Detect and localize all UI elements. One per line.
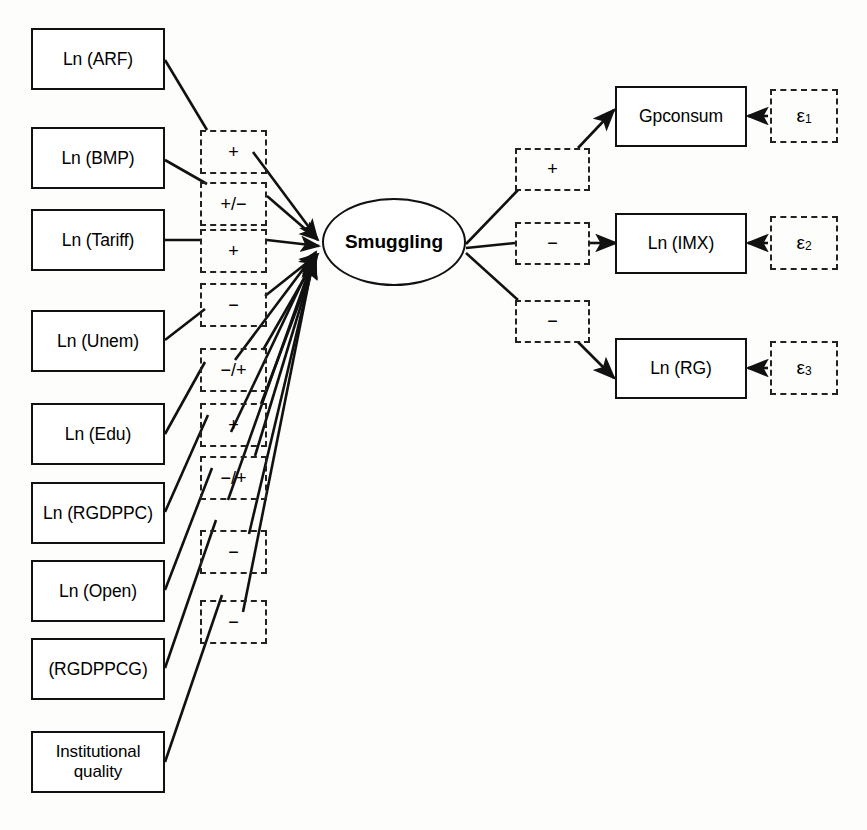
sign-box-tariff[interactable]: + — [200, 229, 267, 273]
error-subscript: 2 — [805, 240, 812, 254]
error-symbol: ε — [796, 105, 804, 127]
sign-label: +/− — [220, 194, 246, 215]
outcome-box-rg[interactable]: Ln (RG) — [615, 338, 747, 399]
error-symbol: ε — [796, 357, 804, 379]
link-smuggling-signplus — [466, 190, 518, 244]
arrow-sign2-smuggling — [267, 196, 318, 240]
sign-box-open[interactable]: −/+ — [200, 456, 267, 500]
predictor-box-unem[interactable]: Ln (Unem) — [31, 310, 165, 372]
latent-label: Smuggling — [345, 231, 443, 253]
predictor-label: Ln (BMP) — [61, 148, 134, 168]
error-subscript: 1 — [805, 113, 812, 127]
link-arf-sign — [165, 60, 207, 130]
predictor-label: Institutional quality — [56, 742, 141, 781]
sign-label: −/+ — [220, 360, 246, 381]
sign-label: − — [228, 612, 239, 633]
latent-variable-smuggling[interactable]: Smuggling — [322, 198, 466, 286]
error-subscript: 3 — [805, 365, 812, 379]
arrow-sign4-smuggling — [265, 254, 318, 296]
diagram-canvas: Ln (ARF) Ln (BMP) Ln (Tariff) Ln (Unem) … — [0, 0, 867, 830]
arrow-sign-rg — [578, 342, 614, 378]
sign-box-rgdppc[interactable]: + — [200, 403, 267, 447]
sign-box-unem[interactable]: − — [200, 283, 267, 327]
error-box-epsilon-1[interactable]: ε1 — [770, 89, 838, 143]
link-unem-sign — [165, 309, 205, 340]
link-smuggling-signminus1 — [466, 243, 515, 248]
predictor-label: Ln (Tariff) — [62, 230, 135, 250]
sign-box-edu[interactable]: −/+ — [200, 348, 267, 392]
link-smuggling-signminus2 — [466, 253, 518, 300]
sign-label: − — [228, 295, 239, 316]
predictor-label: Ln (Unem) — [57, 331, 139, 351]
predictor-box-arf[interactable]: Ln (ARF) — [31, 28, 165, 90]
outcome-label: Gpconsum — [639, 106, 723, 126]
sign-box-institutional-quality[interactable]: − — [200, 600, 267, 644]
predictor-label: Ln (Edu) — [65, 424, 131, 444]
predictor-box-bmp[interactable]: Ln (BMP) — [31, 127, 165, 189]
error-symbol: ε — [796, 232, 804, 254]
sign-box-rgdppcg[interactable]: − — [200, 530, 267, 574]
sign-box-rg[interactable]: − — [515, 300, 590, 343]
predictor-label: (RGDPPCG) — [48, 659, 147, 679]
error-to-outcome-links — [748, 116, 768, 368]
sign-box-gpconsum[interactable]: + — [515, 148, 590, 191]
sign-label: − — [547, 233, 558, 254]
predictor-box-tariff[interactable]: Ln (Tariff) — [31, 209, 165, 271]
link-edu-sign — [165, 362, 205, 434]
predictor-box-rgdppc[interactable]: Ln (RGDPPC) — [31, 482, 165, 544]
sign-label: + — [228, 142, 239, 163]
predictor-box-rgdppcg[interactable]: (RGDPPCG) — [31, 638, 165, 700]
sign-box-arf[interactable]: + — [200, 130, 267, 174]
sign-label: −/+ — [220, 468, 246, 489]
sign-label: − — [228, 542, 239, 563]
predictor-label: Ln (ARF) — [63, 49, 133, 69]
sign-label: + — [228, 241, 239, 262]
predictor-box-institutional-quality[interactable]: Institutional quality — [31, 731, 165, 793]
arrow-sign-gpconsum — [578, 110, 614, 148]
sign-box-bmp[interactable]: +/− — [200, 182, 267, 226]
predictor-label: Ln (RGDPPC) — [43, 503, 153, 523]
latent-to-sign-links — [466, 190, 518, 300]
error-box-epsilon-3[interactable]: ε3 — [770, 341, 838, 395]
sign-box-imx[interactable]: − — [515, 222, 590, 265]
outcome-box-gpconsum[interactable]: Gpconsum — [615, 86, 747, 147]
arrow-sign3-smuggling — [267, 240, 319, 246]
error-box-epsilon-2[interactable]: ε2 — [770, 216, 838, 270]
predictor-box-open[interactable]: Ln (Open) — [31, 560, 165, 622]
outcome-box-imx[interactable]: Ln (IMX) — [615, 213, 747, 274]
sign-label: − — [547, 311, 558, 332]
predictor-box-edu[interactable]: Ln (Edu) — [31, 403, 165, 465]
sign-label: + — [228, 415, 239, 436]
outcome-label: Ln (RG) — [650, 358, 712, 378]
sign-label: + — [547, 159, 558, 180]
arrow-sign5-smuggling — [263, 256, 317, 350]
predictor-label: Ln (Open) — [59, 581, 137, 601]
outcome-label: Ln (IMX) — [648, 233, 714, 253]
arrow-sign6-smuggling — [261, 258, 316, 404]
